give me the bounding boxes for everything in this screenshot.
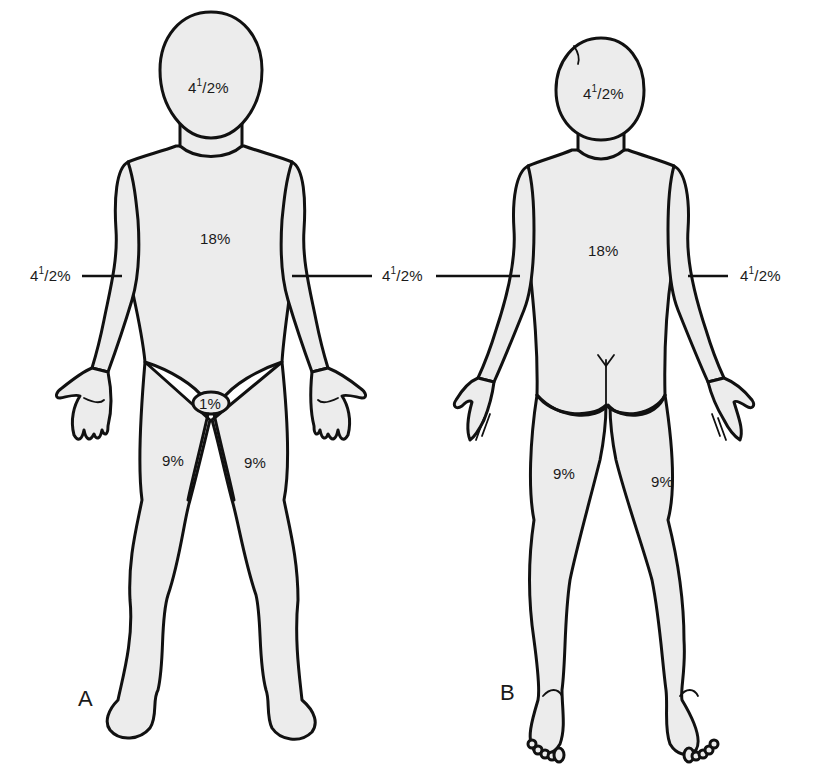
label-b-right-arm: 41/2% <box>740 266 781 284</box>
figure-b-trunk <box>525 150 675 415</box>
figure-a-head <box>160 12 262 138</box>
figure-a-left-arm <box>92 162 139 372</box>
label-a-right-arm: 41/2% <box>382 266 423 284</box>
figure-a-right-hand <box>311 368 366 439</box>
figure-a-anterior <box>56 12 372 739</box>
label-a-genitalia: 1% <box>199 395 221 412</box>
panel-letter-a: A <box>78 686 93 712</box>
label-a-head-sup: 1 <box>197 77 203 88</box>
label-a-left-arm-whole: 4 <box>30 267 39 284</box>
figure-a-trunk <box>125 146 295 400</box>
label-a-right-leg: 9% <box>244 454 266 471</box>
figure-a-left-leg <box>107 362 210 738</box>
rule-of-nines-figure <box>0 0 821 770</box>
figure-a-right-leg <box>212 362 315 739</box>
figure-b-right-leg <box>610 395 698 754</box>
figure-b-left-leg <box>530 395 607 754</box>
figure-b-right-hand <box>708 378 754 440</box>
label-a-head-whole: 4 <box>188 79 197 96</box>
figure-b-left-arm <box>478 166 534 382</box>
label-b-right-arm-whole: 4 <box>740 267 749 284</box>
figure-b-left-hand <box>454 378 494 440</box>
label-a-head: 41/2% <box>188 78 229 96</box>
label-b-head-sup: 1 <box>592 83 598 94</box>
label-a-head-rest: /2% <box>202 79 228 96</box>
figure-a-left-hand <box>56 368 111 439</box>
panel-letter-b: B <box>500 680 515 706</box>
label-b-left-leg: 9% <box>553 465 575 482</box>
figure-a-right-arm <box>281 162 328 372</box>
label-a-left-arm: 41/2% <box>30 266 71 284</box>
figure-b-posterior <box>436 38 754 762</box>
label-b-head-rest: /2% <box>597 85 623 102</box>
label-b-right-leg: 9% <box>651 473 673 490</box>
label-b-right-arm-rest: /2% <box>754 267 780 284</box>
label-b-head-whole: 4 <box>583 85 592 102</box>
label-a-left-leg: 9% <box>162 452 184 469</box>
label-a-right-arm-rest: /2% <box>396 267 422 284</box>
label-a-right-arm-sup: 1 <box>391 265 397 276</box>
label-b-head: 41/2% <box>583 84 624 102</box>
label-a-left-arm-rest: /2% <box>44 267 70 284</box>
figure-b-right-arm <box>668 166 724 382</box>
label-a-left-arm-sup: 1 <box>39 265 45 276</box>
label-a-right-arm-whole: 4 <box>382 267 391 284</box>
label-b-trunk: 18% <box>588 242 619 259</box>
label-b-right-arm-sup: 1 <box>749 265 755 276</box>
label-a-trunk: 18% <box>200 230 231 247</box>
